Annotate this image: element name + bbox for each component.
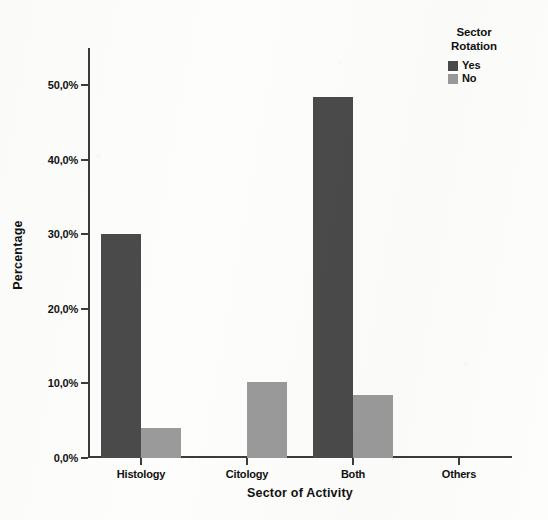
x-tick-label: Histology: [117, 468, 165, 480]
y-tick: [81, 457, 88, 459]
legend-item-no[interactable]: No: [448, 73, 500, 84]
y-tick: [81, 308, 88, 310]
x-tick: [140, 458, 142, 465]
y-tick: [81, 233, 88, 235]
legend-title-line-1: Sector: [422, 26, 526, 40]
bar-chart: Percentage Sector of Activity 0,0%10,0%2…: [0, 0, 548, 520]
y-tick: [81, 84, 88, 86]
y-tick-label: 0,0%: [54, 452, 78, 464]
legend-item-yes[interactable]: Yes: [448, 60, 500, 71]
y-axis-line: [88, 48, 90, 458]
x-tick: [458, 458, 460, 465]
x-axis-title: Sector of Activity: [88, 486, 512, 500]
legend-items: YesNo: [422, 60, 526, 84]
plot-area: 0,0%10,0%20,0%30,0%40,0%50,0% HistologyC…: [88, 48, 512, 458]
y-tick: [81, 159, 88, 161]
legend-label: No: [462, 73, 476, 84]
legend-label: Yes: [462, 60, 480, 71]
legend-title: Sector Rotation: [422, 26, 526, 53]
y-axis-title: Percentage: [11, 220, 25, 289]
y-tick-label: 30,0%: [48, 228, 78, 240]
bar-histology-no: [141, 428, 181, 458]
y-tick-label: 20,0%: [48, 303, 78, 315]
legend-swatch-icon: [448, 61, 458, 71]
y-tick-label: 50,0%: [48, 79, 78, 91]
y-tick-label: 10,0%: [48, 377, 78, 389]
legend: Sector Rotation YesNo: [422, 26, 526, 84]
bar-histology-yes: [101, 234, 141, 458]
y-tick: [81, 382, 88, 384]
legend-swatch-icon: [448, 74, 458, 84]
x-tick: [246, 458, 248, 465]
bar-both-yes: [313, 97, 353, 458]
bar-citology-no: [247, 382, 287, 458]
y-tick-label: 40,0%: [48, 154, 78, 166]
x-tick-label: Others: [442, 468, 476, 480]
x-tick-label: Both: [341, 468, 365, 480]
bar-both-no: [353, 395, 393, 458]
x-tick: [352, 458, 354, 465]
x-tick-label: Citology: [226, 468, 268, 480]
legend-title-line-2: Rotation: [422, 40, 526, 54]
